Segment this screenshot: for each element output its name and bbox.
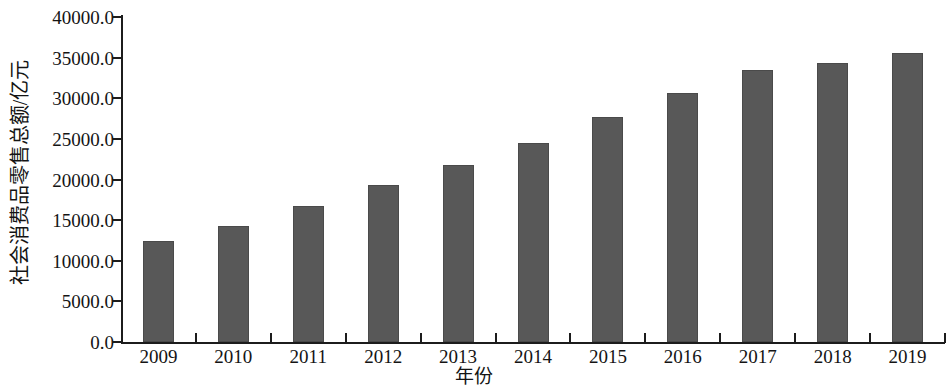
x-axis-tick-mark xyxy=(345,333,347,343)
y-axis-tick-mark xyxy=(112,16,121,18)
bar xyxy=(368,185,399,342)
x-axis-tick-mark xyxy=(420,333,422,343)
bar xyxy=(592,117,623,342)
bar xyxy=(817,63,848,343)
x-axis-tick-label: 2009 xyxy=(139,346,177,368)
bar xyxy=(218,226,249,342)
y-axis-tick-mark xyxy=(112,219,121,221)
x-axis-tick-mark xyxy=(869,333,871,343)
y-axis-tick-mark xyxy=(112,179,121,181)
x-axis-tick-label: 2011 xyxy=(290,346,327,368)
y-axis-tick-mark xyxy=(112,57,121,59)
x-axis-tick-label: 2015 xyxy=(589,346,627,368)
x-axis-tick-mark xyxy=(719,333,721,343)
x-axis-tick-mark xyxy=(270,333,272,343)
x-axis-tick-label: 2014 xyxy=(514,346,552,368)
x-axis-tick-label: 2019 xyxy=(889,346,927,368)
x-axis-tick-label: 2012 xyxy=(364,346,402,368)
x-axis-tick-label: 2018 xyxy=(814,346,852,368)
x-axis-tick-label: 2016 xyxy=(664,346,702,368)
x-axis-tick-label: 2010 xyxy=(214,346,252,368)
x-axis-title: 年份 xyxy=(0,366,948,387)
bar xyxy=(293,206,324,342)
bar-chart: 社会消费品零售总额/亿元 0.05000.010000.015000.02000… xyxy=(0,0,948,387)
bar xyxy=(143,241,174,342)
plot-bars-layer: 2009201020112012201320142015201620172018… xyxy=(0,0,948,387)
bar xyxy=(742,70,773,342)
y-axis-tick-mark xyxy=(112,138,121,140)
x-axis-tick-mark xyxy=(944,333,946,343)
bar xyxy=(518,143,549,342)
x-axis-tick-mark xyxy=(569,333,571,343)
x-axis-tick-mark xyxy=(495,333,497,343)
y-axis-tick-mark xyxy=(112,260,121,262)
x-axis-tick-label: 2017 xyxy=(739,346,777,368)
x-axis-tick-mark xyxy=(794,333,796,343)
y-axis-tick-mark xyxy=(112,341,121,343)
x-axis-tick-label: 2013 xyxy=(439,346,477,368)
x-axis-tick-mark xyxy=(195,333,197,343)
bar xyxy=(892,53,923,342)
y-axis-tick-mark xyxy=(112,300,121,302)
bar xyxy=(443,165,474,342)
bar xyxy=(667,93,698,342)
y-axis-tick-mark xyxy=(112,97,121,99)
x-axis-tick-mark xyxy=(644,333,646,343)
